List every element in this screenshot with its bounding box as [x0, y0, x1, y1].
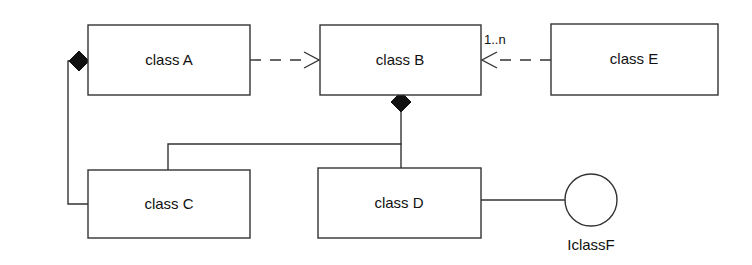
class-box-d[interactable]: class D — [318, 168, 481, 238]
interface-iclassf-circle — [565, 174, 617, 226]
edge-composition-a-to-c-line — [68, 61, 88, 204]
edge-dependency-a-to-b[interactable] — [250, 52, 319, 68]
interface-iclassf[interactable]: IclassF — [565, 174, 617, 253]
diagram-svg: class A class B class E class C class D … — [0, 0, 752, 265]
multiplicity-label-1-to-n: 1..n — [484, 32, 506, 47]
class-box-e[interactable]: class E — [551, 24, 718, 95]
class-box-a[interactable]: class A — [88, 25, 250, 95]
edge-composition-b-to-c-d[interactable] — [168, 92, 411, 170]
class-box-b[interactable]: class B — [320, 25, 481, 95]
class-box-d-label: class D — [374, 194, 423, 211]
interface-iclassf-label: IclassF — [567, 236, 615, 253]
uml-class-diagram: class A class B class E class C class D … — [0, 0, 752, 265]
edge-dependency-e-to-b[interactable] — [482, 52, 551, 68]
dependency-arrowhead-into-class-b-right — [482, 52, 497, 68]
edge-composition-b-to-c-line — [168, 144, 401, 170]
class-box-c-label: class C — [144, 195, 193, 212]
class-box-b-label: class B — [376, 51, 424, 68]
edge-composition-a-to-c[interactable] — [68, 51, 89, 204]
dependency-arrowhead-into-class-b — [304, 52, 319, 68]
composition-diamond-class-a — [69, 51, 89, 71]
class-box-a-label: class A — [145, 51, 193, 68]
class-box-c[interactable]: class C — [88, 170, 250, 238]
class-box-e-label: class E — [610, 50, 658, 67]
